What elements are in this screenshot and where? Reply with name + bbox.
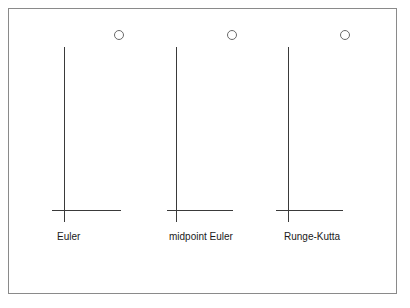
vertical-axis-line (176, 47, 177, 222)
diagram-frame (8, 8, 397, 294)
circle-marker-icon (227, 30, 237, 40)
panel-label: Euler (57, 231, 80, 243)
panel-label: Runge-Kutta (284, 231, 340, 243)
circle-marker-icon (114, 30, 124, 40)
horizontal-axis-line (167, 210, 233, 211)
circle-marker-icon (340, 30, 350, 40)
vertical-axis-line (288, 47, 289, 222)
horizontal-axis-line (276, 210, 343, 211)
horizontal-axis-line (52, 210, 121, 211)
vertical-axis-line (64, 47, 65, 222)
panel-label: midpoint Euler (169, 231, 233, 243)
